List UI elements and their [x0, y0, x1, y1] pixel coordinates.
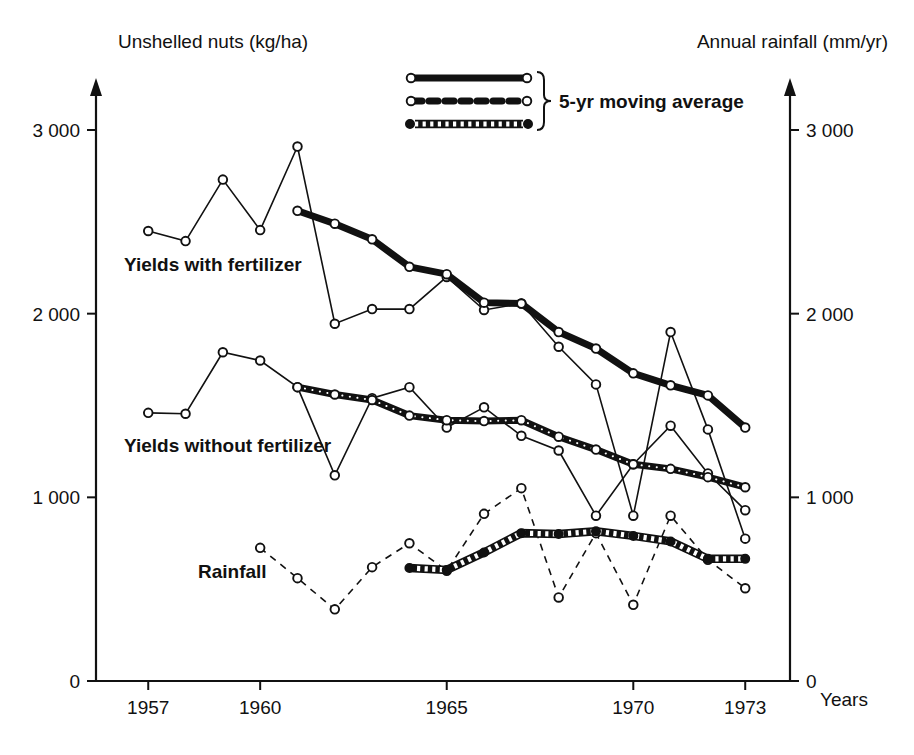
data-point — [629, 460, 638, 469]
y-tick-label-right: 3 000 — [806, 120, 854, 141]
y-tick-label-left: 3 000 — [32, 120, 80, 141]
x-tick-label: 1973 — [724, 697, 766, 718]
data-point — [629, 511, 638, 520]
data-point — [666, 328, 675, 337]
y-tick-label-right: 1 000 — [806, 487, 854, 508]
data-point — [704, 391, 713, 400]
data-point — [554, 342, 563, 351]
data-point — [741, 534, 750, 543]
data-point — [293, 142, 302, 151]
chart-canvas: 01 0002 0003 00001 0002 0003 00019571960… — [0, 0, 914, 755]
data-point — [554, 446, 563, 455]
data-point — [219, 175, 228, 184]
data-point — [704, 555, 712, 563]
data-point — [704, 473, 713, 482]
x-tick-label: 1970 — [612, 697, 654, 718]
data-point — [554, 593, 563, 602]
data-point — [405, 411, 414, 420]
x-axis-title: Years — [820, 689, 868, 710]
data-point — [629, 369, 638, 378]
data-point — [666, 511, 675, 520]
data-point — [405, 305, 414, 314]
data-point — [517, 416, 526, 425]
data-point — [629, 600, 638, 609]
y-tick-label-right: 2 000 — [806, 304, 854, 325]
data-point — [666, 465, 675, 474]
data-point — [443, 566, 451, 574]
x-tick-label: 1965 — [426, 697, 468, 718]
chart-root: 01 0002 0003 00001 0002 0003 00019571960… — [0, 0, 914, 755]
data-point — [256, 226, 265, 235]
y-axis-right-arrow — [784, 78, 796, 96]
data-point — [517, 484, 526, 493]
series-line-2 — [148, 352, 745, 515]
data-point — [330, 390, 339, 399]
data-point — [368, 563, 377, 572]
data-point — [592, 527, 600, 535]
data-point — [592, 344, 601, 353]
data-point — [741, 506, 750, 515]
data-point — [517, 432, 526, 441]
data-point — [480, 298, 489, 307]
data-point — [517, 299, 526, 308]
data-point — [293, 383, 302, 392]
legend-marker-open — [523, 97, 532, 106]
data-point — [480, 548, 488, 556]
legend-marker-open — [523, 74, 532, 83]
data-point — [666, 381, 675, 390]
data-point — [256, 356, 265, 365]
data-point — [144, 409, 153, 418]
data-point — [480, 403, 489, 412]
data-point — [480, 510, 489, 519]
data-point — [629, 532, 637, 540]
data-point — [181, 237, 190, 246]
data-point — [293, 207, 302, 216]
data-point — [517, 529, 525, 537]
series-line-4 — [260, 488, 745, 609]
legend-brace — [537, 72, 551, 130]
data-point — [480, 417, 489, 426]
data-point — [293, 574, 302, 583]
y-tick-label-right: 0 — [806, 671, 817, 692]
series-label: Yields with fertilizer — [124, 254, 302, 275]
data-point — [368, 396, 377, 405]
data-point — [554, 530, 562, 538]
series-label: Yields without fertilizer — [124, 435, 332, 456]
data-point — [741, 584, 750, 593]
data-point — [592, 445, 601, 454]
series-line-0 — [148, 147, 745, 539]
data-point — [368, 235, 377, 244]
y-axis-title-left: Unshelled nuts (kg/ha) — [118, 31, 308, 52]
data-point — [554, 432, 563, 441]
data-point — [442, 416, 451, 425]
legend-label: 5-yr moving average — [559, 91, 744, 112]
data-point — [741, 555, 749, 563]
y-tick-label-left: 1 000 — [32, 487, 80, 508]
x-tick-label: 1957 — [127, 697, 169, 718]
data-point — [181, 409, 190, 418]
data-point — [741, 483, 750, 492]
data-point — [592, 511, 601, 520]
data-point — [219, 348, 228, 357]
data-point — [144, 227, 153, 236]
data-point — [256, 544, 265, 553]
data-point — [330, 471, 339, 480]
data-point — [368, 305, 377, 314]
data-point — [330, 319, 339, 328]
data-point — [666, 537, 674, 545]
data-point — [405, 263, 414, 272]
y-axis-left-arrow — [90, 78, 102, 96]
y-tick-label-left: 0 — [69, 671, 80, 692]
y-tick-label-left: 2 000 — [32, 304, 80, 325]
legend-marker-open — [407, 74, 416, 83]
series-line-1 — [297, 211, 745, 428]
data-point — [592, 380, 601, 389]
legend-marker-open — [407, 97, 416, 106]
data-point — [405, 539, 414, 548]
x-tick-label: 1960 — [239, 697, 281, 718]
data-point — [704, 425, 713, 434]
data-point — [330, 219, 339, 228]
data-point — [330, 605, 339, 614]
data-point — [666, 421, 675, 430]
y-axis-title-right: Annual rainfall (mm/yr) — [697, 31, 888, 52]
